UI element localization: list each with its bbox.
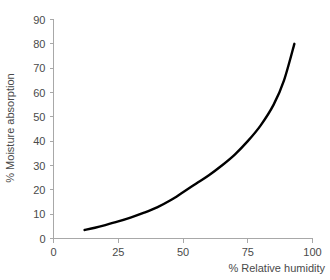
y-axis-title: % Moisture absorption xyxy=(4,73,16,182)
y-tick-label: 70 xyxy=(33,62,45,74)
y-tick-label: 30 xyxy=(33,160,45,172)
x-tick-label: 25 xyxy=(112,246,124,258)
y-tick-label: 0 xyxy=(39,233,45,245)
y-tick-label: 50 xyxy=(33,111,45,123)
y-tick-label: 80 xyxy=(33,38,45,50)
chart-container: 0102030405060708090 0255075100 % Moistur… xyxy=(0,0,330,280)
moisture-absorption-line-chart: 0102030405060708090 0255075100 % Moistur… xyxy=(0,0,330,280)
y-tick-label: 60 xyxy=(33,87,45,99)
x-axis-tick-labels: 0255075100 xyxy=(50,246,321,258)
y-tick-label: 90 xyxy=(33,14,45,26)
y-tick-label: 20 xyxy=(33,184,45,196)
y-tick-label: 10 xyxy=(33,208,45,220)
y-axis-tick-labels: 0102030405060708090 xyxy=(33,14,45,245)
y-axis-tick-marks xyxy=(50,20,54,239)
data-series-curve xyxy=(85,44,295,230)
x-axis-title: % Relative humidity xyxy=(228,262,325,274)
x-tick-label: 0 xyxy=(50,246,56,258)
axis-lines xyxy=(54,20,313,239)
y-tick-label: 40 xyxy=(33,135,45,147)
x-tick-label: 75 xyxy=(242,246,254,258)
x-tick-label: 50 xyxy=(177,246,189,258)
x-axis-tick-marks xyxy=(54,239,313,243)
x-tick-label: 100 xyxy=(303,246,321,258)
